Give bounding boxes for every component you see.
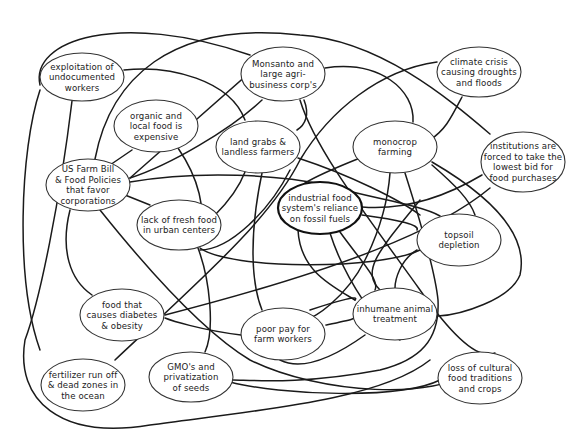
node-label-line: and floods — [456, 78, 502, 88]
node-industrial: industrial foodsystem's relianceon fossi… — [278, 182, 362, 234]
connection-line — [230, 380, 440, 393]
node-label-line: food purchases — [489, 173, 556, 183]
connection-line — [165, 318, 241, 335]
node-label-line: poor pay for — [256, 324, 310, 334]
node-label-line: loss of cultural — [448, 363, 513, 373]
node-label-line: large agri- — [260, 69, 305, 79]
node-label-line: causing droughts — [441, 67, 517, 77]
node-label-line: exploitation of — [50, 62, 114, 72]
node-inhumane: inhumane animaltreatment — [353, 288, 437, 340]
node-label-line: food traditions — [448, 373, 513, 383]
node-lackfresh: lack of fresh foodin urban centers — [137, 200, 221, 250]
node-landgrabs: land grabs &landless farmers — [216, 121, 300, 173]
node-label-line: farm workers — [254, 334, 312, 344]
node-label-line: food that — [102, 300, 143, 310]
node-organic: organic andlocal food isexpensive — [114, 100, 198, 152]
node-label-line: organic and — [130, 111, 182, 121]
node-label-line: expensive — [134, 132, 179, 142]
connection-line — [325, 67, 413, 122]
node-exploitation: exploitation ofundocumentedworkers — [40, 53, 124, 101]
node-climate: climate crisiscausing droughtsand floods — [437, 47, 521, 97]
node-label-line: Monsanto and — [252, 59, 314, 69]
node-label-line: on fossil fuels — [290, 214, 351, 224]
node-label-line: land grabs & — [230, 137, 286, 147]
node-label-line: undocumented — [49, 72, 115, 82]
connection-line — [310, 298, 356, 310]
connection-line — [198, 248, 210, 352]
node-monocrop: monocropfarming — [353, 121, 437, 173]
node-label-line: monocrop — [373, 137, 417, 147]
node-label-line: local food is — [130, 121, 183, 131]
node-label-line: & obesity — [101, 321, 143, 331]
node-gmo: GMO's andprivatizationof seeds — [149, 352, 233, 402]
node-diabetes: food thatcauses diabetes& obesity — [80, 289, 164, 341]
connection-line — [66, 210, 92, 295]
node-label-line: inhumane animal — [357, 304, 433, 314]
connection-line — [430, 97, 462, 140]
connection-line — [200, 248, 420, 265]
node-label-line: fertilizer run off — [49, 370, 119, 380]
node-label-line: depletion — [438, 240, 479, 250]
node-topsoil: topsoildepletion — [417, 214, 501, 266]
node-label-line: privatization — [163, 372, 218, 382]
node-fertilizer: fertilizer run off& dead zones inthe oce… — [41, 359, 125, 411]
node-label-line: landless farmers — [222, 147, 295, 157]
node-monsanto: Monsanto andlarge agri-business corp's — [241, 47, 325, 101]
node-cultural: loss of culturalfood traditionsand crops — [438, 352, 522, 404]
node-label-line: topsoil — [444, 230, 473, 240]
node-label-line: & Food Policies — [55, 175, 121, 185]
connection-line — [110, 150, 132, 165]
node-label-line: farming — [378, 147, 412, 157]
node-label-line: lowest bid for — [493, 162, 553, 172]
node-label-line: institutions are — [490, 141, 556, 151]
connection-line — [362, 215, 417, 230]
node-label-line: corporations — [60, 196, 116, 206]
node-poorpay: poor pay forfarm workers — [241, 308, 325, 360]
node-label-line: in urban centers — [143, 225, 216, 235]
connection-line — [326, 315, 356, 325]
node-label-line: & dead zones in — [48, 380, 119, 390]
node-label-line: US Farm Bill — [62, 164, 115, 174]
node-label-line: business corp's — [249, 80, 317, 90]
node-label-line: treatment — [373, 314, 418, 324]
node-label-line: workers — [65, 83, 100, 93]
node-label-line: system's reliance — [282, 203, 358, 213]
node-label-line: the ocean — [61, 391, 105, 401]
node-label-line: causes diabetes — [87, 310, 158, 320]
node-label-line: GMO's and — [167, 362, 214, 372]
node-label-line: industrial food — [288, 193, 351, 203]
node-label-line: lack of fresh food — [141, 215, 217, 225]
concept-web-diagram: exploitation ofundocumentedworkersMonsan… — [0, 0, 575, 434]
connection-line — [125, 195, 150, 205]
node-label-line: forced to take the — [484, 152, 562, 162]
node-usfarmbill: US Farm Bill& Food Policiesthat favorcor… — [46, 159, 130, 211]
node-label-line: climate crisis — [450, 57, 508, 67]
node-institutions: institutions areforced to take thelowest… — [481, 132, 565, 192]
node-label-line: and crops — [458, 384, 501, 394]
connection-line — [215, 172, 245, 215]
connection-line — [372, 200, 420, 290]
connection-line — [23, 90, 40, 350]
node-label-line: of seeds — [173, 383, 210, 393]
node-label-line: that favor — [66, 185, 110, 195]
